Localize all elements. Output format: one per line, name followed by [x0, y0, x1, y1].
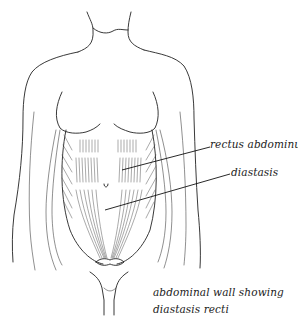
- torso-drawing: [0, 0, 298, 317]
- right-arm-outline: [144, 50, 200, 268]
- left-inner-arm: [29, 112, 35, 270]
- torso-right-side-outer: [160, 130, 172, 268]
- left-breast: [56, 92, 100, 133]
- rectus-hatching: [62, 135, 156, 258]
- label-rectus-abdominus: rectus abdominus: [210, 138, 298, 150]
- neck-left-line: [78, 12, 93, 52]
- neck-right-line: [128, 12, 144, 50]
- left-arm-outline: [12, 52, 78, 262]
- diastasis-leader-line: [105, 174, 230, 210]
- abdomen-outline: [62, 130, 156, 264]
- navel: [104, 184, 108, 187]
- groin-lines: [90, 272, 128, 315]
- torso-left-side: [52, 130, 62, 265]
- torso-left-side-outer: [46, 130, 56, 270]
- chin-line: [93, 28, 128, 33]
- right-breast: [114, 92, 158, 133]
- diastasis-recti-illustration: rectus abdominus diastasis abdominal wal…: [0, 0, 298, 317]
- caption-line-1: abdominal wall showing: [153, 286, 284, 298]
- torso-right-side: [156, 130, 166, 262]
- groin-join: [104, 288, 116, 291]
- label-diastasis: diastasis: [231, 166, 278, 178]
- caption-line-2: diastasis recti: [153, 303, 229, 315]
- pubic-bone: [96, 259, 124, 266]
